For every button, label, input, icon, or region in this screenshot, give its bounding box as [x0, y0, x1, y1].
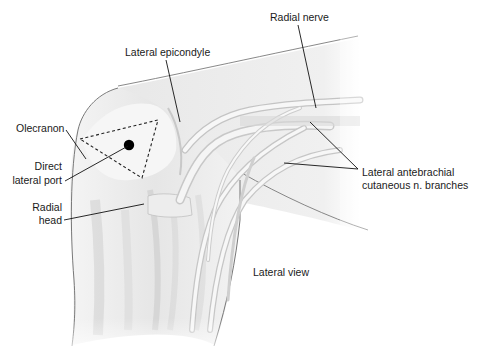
elbow-anatomy-figure: Radial nerve Lateral epicondyle Olecrano…	[0, 0, 477, 364]
label-direct-lateral-port-line1: Direct	[20, 160, 62, 172]
direct-lateral-port-marker	[124, 140, 134, 150]
label-lacn-line2: cutaneous n. branches	[362, 179, 468, 191]
label-lateral-epicondyle: Lateral epicondyle	[125, 46, 210, 58]
label-direct-lateral-port-line2: lateral port	[2, 174, 62, 186]
label-lacn-line1: Lateral antebrachial	[362, 166, 454, 178]
label-olecranon: Olecranon	[16, 122, 64, 134]
view-caption: Lateral view	[253, 266, 309, 278]
label-radial-head-line1: Radial	[10, 201, 62, 213]
label-radial-head-line2: head	[10, 214, 62, 226]
label-radial-nerve: Radial nerve	[270, 11, 329, 23]
